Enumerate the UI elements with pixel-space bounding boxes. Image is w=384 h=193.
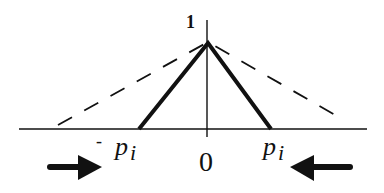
origin-label: 0 — [199, 148, 213, 176]
left-arrow-icon — [290, 155, 350, 181]
peak-value-label: 1 — [186, 13, 195, 31]
neg-sign-label: - — [96, 132, 102, 150]
diagram-canvas: 1 - p i 0 p i — [0, 0, 384, 193]
right-arrow-icon — [50, 155, 102, 180]
neg-p-label: p — [115, 134, 128, 160]
pos-p-subscript: i — [278, 142, 284, 164]
solid-triangle — [139, 43, 271, 129]
neg-p-subscript: i — [130, 142, 136, 164]
pos-p-label: p — [263, 134, 276, 160]
